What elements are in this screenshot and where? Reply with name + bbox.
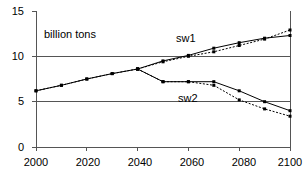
- x-axis-tick-2080: 2080: [224, 157, 264, 168]
- series-label-sw2: sw2: [178, 93, 198, 104]
- x-axis-tick-2040: 2040: [120, 157, 160, 168]
- data-series: [35, 29, 292, 118]
- y-axis-tick-0: 0: [2, 142, 24, 153]
- series-label-sw1: sw1: [176, 33, 196, 44]
- chart-plot-area: [0, 0, 308, 176]
- y-axis-tick-15: 15: [2, 6, 24, 17]
- x-axis-tick-2000: 2000: [16, 157, 56, 168]
- y-axis-tick-10: 10: [2, 51, 24, 62]
- chart-container: 15 10 5 0 2000 2020 2040 2060 2080 2100 …: [0, 0, 308, 176]
- x-axis-tick-2100: 2100: [270, 157, 308, 168]
- units-annotation: billion tons: [44, 29, 96, 40]
- x-axis-tick-2020: 2020: [68, 157, 108, 168]
- x-axis-tick-2060: 2060: [172, 157, 212, 168]
- y-axis-tick-5: 5: [2, 96, 24, 107]
